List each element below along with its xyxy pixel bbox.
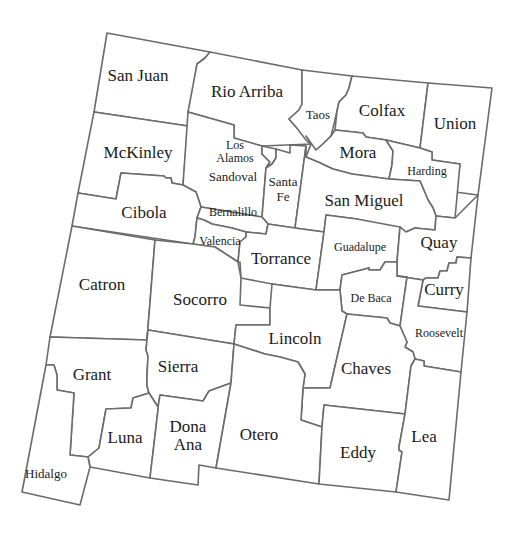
county-eddy[interactable]	[319, 405, 405, 492]
county-torrance[interactable]	[238, 224, 324, 290]
county-catron[interactable]	[50, 226, 155, 340]
map-canvas: San Juan Rio Arriba Taos Colfax Union Mc…	[0, 0, 509, 538]
new-mexico-county-map: San Juan Rio Arriba Taos Colfax Union Mc…	[0, 0, 509, 538]
